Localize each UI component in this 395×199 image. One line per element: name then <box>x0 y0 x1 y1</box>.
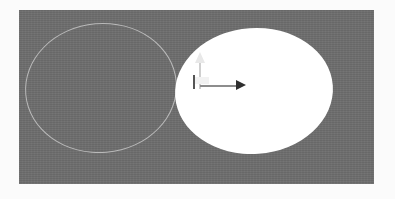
arrow-right-icon[interactable] <box>236 80 246 90</box>
gizmo-origin-pin[interactable] <box>193 75 195 89</box>
screenshot-root <box>0 0 395 199</box>
3d-viewport[interactable] <box>19 10 374 184</box>
transform-gizmo[interactable] <box>168 45 258 105</box>
gizmo-plane-handle[interactable] <box>195 77 209 84</box>
wireframe-ellipse-object[interactable] <box>20 17 183 160</box>
arrow-up-icon[interactable] <box>195 52 205 63</box>
